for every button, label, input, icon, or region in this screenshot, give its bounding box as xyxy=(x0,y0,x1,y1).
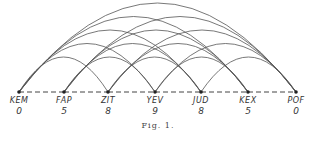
node-label-fap: FAP xyxy=(56,96,72,105)
node-value-zit: 8 xyxy=(105,106,111,116)
node-jud xyxy=(199,90,203,94)
node-label-kem: KEM xyxy=(10,96,29,105)
node-label-kex: KEX xyxy=(239,96,256,105)
arc-edge-jud-pof xyxy=(201,57,296,92)
node-value-pof: 0 xyxy=(293,106,299,116)
node-kex xyxy=(246,90,250,94)
node-label-jud: JUD xyxy=(193,96,209,105)
node-fap xyxy=(62,90,66,94)
node-value-kem: 0 xyxy=(16,106,22,116)
node-value-jud: 8 xyxy=(198,106,204,116)
node-value-yev: 9 xyxy=(152,106,158,116)
node-label-yev: YEV xyxy=(147,96,164,105)
figure-caption: Fig. 1. xyxy=(0,121,316,130)
node-label-zit: ZIT xyxy=(101,96,115,105)
node-kem xyxy=(17,90,21,94)
node-pof xyxy=(294,90,298,94)
node-value-kex: 5 xyxy=(245,106,251,116)
node-label-pof: POF xyxy=(287,96,304,105)
node-zit xyxy=(106,90,110,94)
node-value-fap: 5 xyxy=(61,106,67,116)
node-yev xyxy=(153,90,157,94)
